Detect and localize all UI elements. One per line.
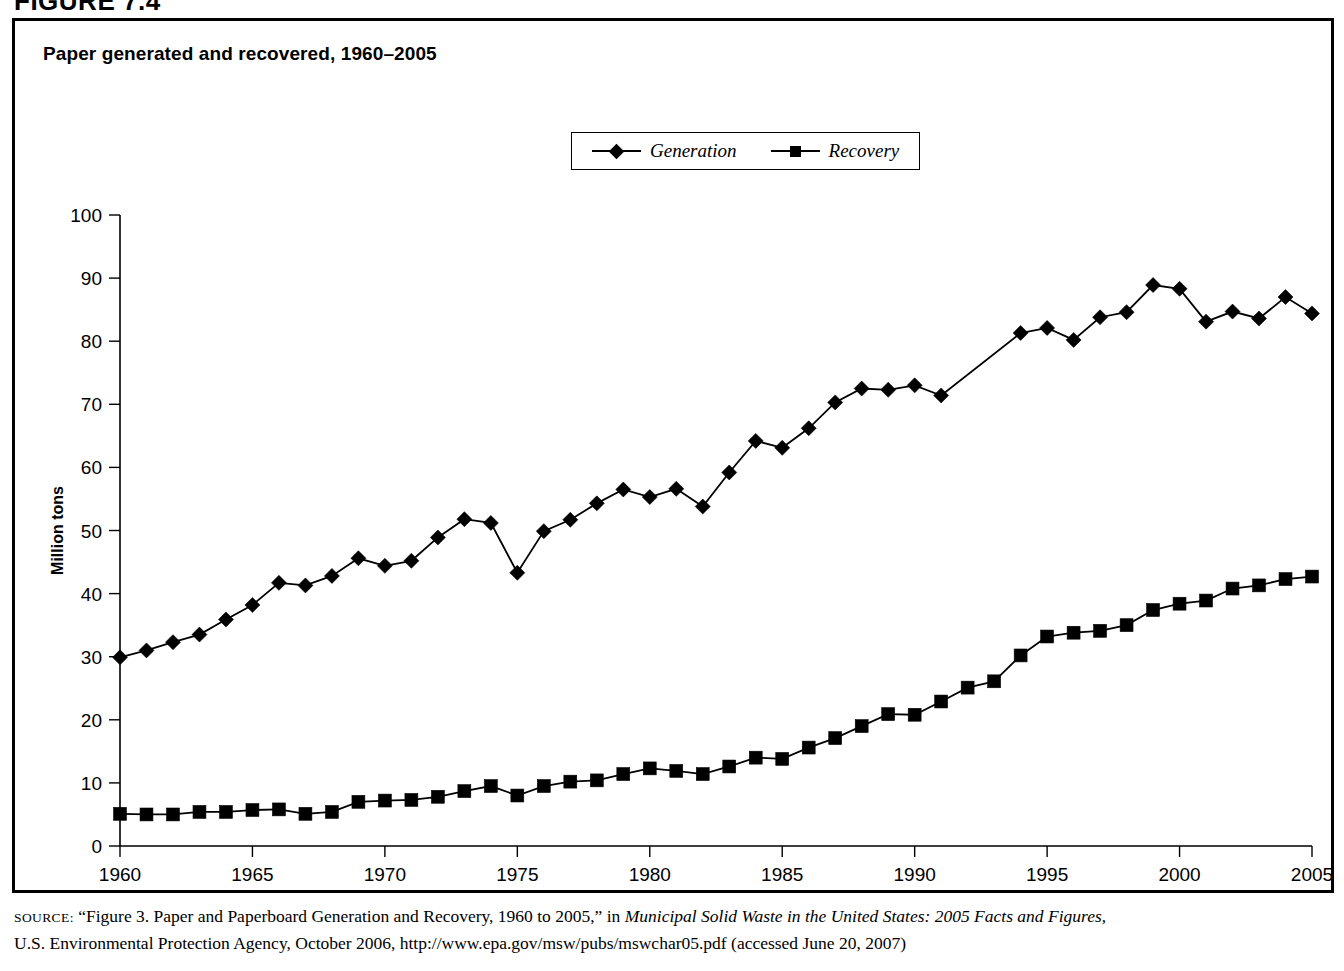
- square-marker: [1173, 597, 1186, 610]
- square-marker: [988, 675, 1001, 688]
- source-prefix: SOURCE:: [14, 910, 74, 925]
- square-marker: [935, 695, 948, 708]
- diamond-marker: [589, 496, 604, 511]
- diamond-marker: [218, 612, 233, 627]
- y-tick-label: 100: [70, 205, 102, 226]
- square-marker: [643, 762, 656, 775]
- y-tick-label: 60: [81, 457, 102, 478]
- square-marker: [484, 780, 497, 793]
- source-line1-b: ,: [1102, 906, 1106, 926]
- diamond-marker: [775, 440, 790, 455]
- diamond-marker: [113, 650, 128, 665]
- y-tick-label: 50: [81, 521, 102, 542]
- x-tick-label: 2005: [1291, 864, 1333, 885]
- x-tick-label: 1960: [99, 864, 141, 885]
- data-series-layer: [113, 278, 1320, 821]
- square-marker: [193, 805, 206, 818]
- x-tick-label: 1990: [894, 864, 936, 885]
- square-marker: [855, 720, 868, 733]
- diamond-marker: [563, 512, 578, 527]
- series-recovery: [114, 570, 1319, 821]
- x-tick-label: 1965: [231, 864, 273, 885]
- series-generation: [113, 278, 1320, 665]
- square-marker: [908, 708, 921, 721]
- square-marker: [299, 807, 312, 820]
- diamond-marker: [881, 382, 896, 397]
- square-marker: [1306, 570, 1319, 583]
- square-marker: [325, 805, 338, 818]
- square-marker: [564, 775, 577, 788]
- diamond-marker: [298, 578, 313, 593]
- square-marker: [802, 741, 815, 754]
- square-marker: [1067, 626, 1080, 639]
- square-marker: [431, 790, 444, 803]
- square-marker: [1253, 579, 1266, 592]
- y-axis-title: Million tons: [49, 486, 66, 575]
- diamond-marker: [695, 499, 710, 514]
- diamond-marker: [324, 568, 339, 583]
- y-tick-label: 20: [81, 710, 102, 731]
- y-tick-label: 0: [91, 836, 102, 857]
- square-marker: [167, 808, 180, 821]
- square-marker: [1120, 619, 1133, 632]
- y-tick-label: 40: [81, 584, 102, 605]
- diamond-marker: [907, 378, 922, 393]
- diamond-marker: [616, 482, 631, 497]
- y-tick-label: 80: [81, 331, 102, 352]
- square-marker: [1014, 649, 1027, 662]
- square-marker: [405, 793, 418, 806]
- diamond-marker: [669, 481, 684, 496]
- axis-lines: [120, 215, 1312, 846]
- figure-page: FIGURE 7.4 Paper generated and recovered…: [0, 0, 1344, 971]
- square-marker: [1279, 573, 1292, 586]
- diamond-marker: [483, 515, 498, 530]
- square-marker: [246, 804, 259, 817]
- square-marker: [723, 760, 736, 773]
- source-line1-italic: Municipal Solid Waste in the United Stat…: [625, 906, 1102, 926]
- square-marker: [696, 768, 709, 781]
- diamond-marker: [510, 565, 525, 580]
- square-marker: [961, 681, 974, 694]
- x-axis-ticks: 1960196519701975198019851990199520002005: [99, 846, 1333, 885]
- line-chart-svg: 0102030405060708090100 19601965197019751…: [15, 21, 1337, 896]
- square-marker: [458, 785, 471, 798]
- square-marker: [749, 751, 762, 764]
- y-tick-label: 90: [81, 268, 102, 289]
- x-tick-label: 1980: [629, 864, 671, 885]
- square-marker: [1041, 630, 1054, 643]
- figure-number: FIGURE 7.4: [14, 0, 161, 17]
- square-marker: [1147, 604, 1160, 617]
- diamond-marker: [1040, 320, 1055, 335]
- square-marker: [537, 780, 550, 793]
- square-marker: [590, 774, 603, 787]
- y-tick-label: 30: [81, 647, 102, 668]
- square-marker: [220, 805, 233, 818]
- source-line1-a: “Figure 3. Paper and Paperboard Generati…: [74, 906, 625, 926]
- plot-area: 0102030405060708090100 19601965197019751…: [15, 21, 1337, 896]
- square-marker: [670, 764, 683, 777]
- x-tick-label: 1995: [1026, 864, 1068, 885]
- square-marker: [272, 803, 285, 816]
- square-marker: [1226, 582, 1239, 595]
- source-line2: U.S. Environmental Protection Agency, Oc…: [14, 933, 906, 953]
- diamond-marker: [536, 524, 551, 539]
- square-marker: [829, 732, 842, 745]
- x-tick-label: 1970: [364, 864, 406, 885]
- source-note: SOURCE: “Figure 3. Paper and Paperboard …: [14, 903, 1334, 956]
- diamond-marker: [1225, 304, 1240, 319]
- square-marker: [882, 708, 895, 721]
- square-marker: [776, 752, 789, 765]
- diamond-marker: [457, 512, 472, 527]
- square-marker: [511, 789, 524, 802]
- diamond-marker: [642, 490, 657, 505]
- x-tick-label: 1975: [496, 864, 538, 885]
- square-marker: [352, 795, 365, 808]
- x-tick-label: 2000: [1158, 864, 1200, 885]
- y-tick-label: 10: [81, 773, 102, 794]
- square-marker: [1200, 594, 1213, 607]
- diamond-marker: [854, 381, 869, 396]
- y-axis-ticks: 0102030405060708090100: [70, 205, 120, 857]
- diamond-marker: [165, 635, 180, 650]
- square-marker: [617, 768, 630, 781]
- figure-frame: Paper generated and recovered, 1960–2005…: [12, 18, 1334, 893]
